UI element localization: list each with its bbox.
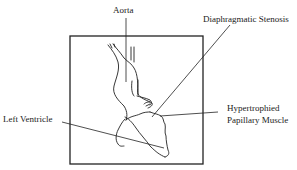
ventricle-right-wall xyxy=(150,112,169,157)
ventricle-inner-wall xyxy=(125,117,165,157)
frame-box xyxy=(70,36,203,164)
label-diaphragmatic-stenosis: Diaphragmatic Stenosis xyxy=(203,14,289,24)
inner-vessel xyxy=(132,80,138,96)
leader-lines xyxy=(62,18,230,148)
label-left-ventricle: Left Ventricle xyxy=(3,114,53,124)
label-papillary-muscle: Papillary Muscle xyxy=(227,115,288,125)
vessel-lines xyxy=(131,47,134,62)
ventricle-curl xyxy=(116,119,125,146)
aorta-right-wall xyxy=(113,44,150,102)
aorta-branch-ticks xyxy=(110,44,115,48)
leader-left-ventricle xyxy=(62,122,164,148)
label-aorta: Aorta xyxy=(113,5,134,15)
label-hypertrophied: Hypertrophied xyxy=(227,103,279,113)
aorta-left-wall xyxy=(108,45,127,120)
diagram: Aorta Diaphragmatic Stenosis Hypertrophi… xyxy=(0,0,297,170)
heart-outline xyxy=(108,44,169,157)
stenosis-knot xyxy=(144,102,152,108)
diagram-drawing xyxy=(0,0,297,170)
ventricle-top xyxy=(126,112,150,120)
leader-papillary xyxy=(160,112,218,116)
leader-stenosis xyxy=(152,25,230,117)
